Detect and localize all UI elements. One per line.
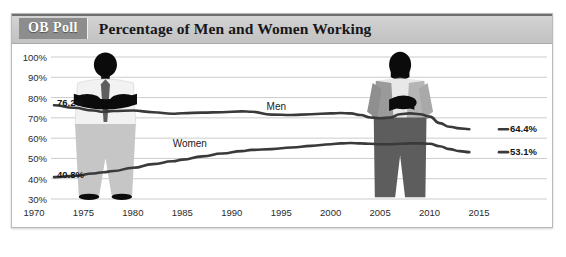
x-axis-label: 1985 — [162, 207, 202, 218]
y-axis-label: 90% — [7, 72, 47, 83]
chart-body: 100%90%80%70%60%50%40%30%197019751980198… — [12, 44, 552, 227]
x-axis-label: 1995 — [261, 207, 301, 218]
value-label-women-end: 53.1% — [510, 146, 537, 157]
series-label-men: Men — [267, 101, 286, 112]
y-axis-label: 60% — [7, 133, 47, 144]
y-axis-label: 30% — [7, 194, 47, 205]
x-axis-label: 1980 — [113, 207, 153, 218]
x-axis-label: 2010 — [410, 207, 450, 218]
y-axis-label: 50% — [7, 153, 47, 164]
screenshot-root: OB Poll Percentage of Men and Women Work… — [0, 0, 566, 257]
y-axis-label: 70% — [7, 112, 47, 123]
chart-svg — [12, 44, 552, 227]
x-axis-label: 1975 — [63, 207, 103, 218]
panel-header: OB Poll Percentage of Men and Women Work… — [12, 14, 552, 44]
x-axis-label: 1990 — [212, 207, 252, 218]
y-axis-label: 40% — [7, 173, 47, 184]
series-label-women: Women — [173, 138, 207, 149]
ob-poll-badge: OB Poll — [19, 18, 88, 39]
poll-panel: OB Poll Percentage of Men and Women Work… — [11, 13, 553, 228]
woman-illustration — [367, 52, 433, 197]
x-axis-label: 2005 — [360, 207, 400, 218]
value-label-women-start: 40.8% — [57, 169, 84, 180]
line-chart: 100%90%80%70%60%50%40%30%197019751980198… — [12, 44, 552, 227]
x-axis-label: 1970 — [14, 207, 54, 218]
value-label-men-start: 76.2% — [57, 97, 84, 108]
x-axis-label: 2000 — [311, 207, 351, 218]
value-label-men-end: 64.4% — [510, 123, 537, 134]
page-title: Percentage of Men and Women Working — [99, 20, 372, 38]
x-axis-label: 2015 — [459, 207, 499, 218]
y-axis-label: 80% — [7, 92, 47, 103]
y-axis-label: 100% — [7, 52, 47, 63]
